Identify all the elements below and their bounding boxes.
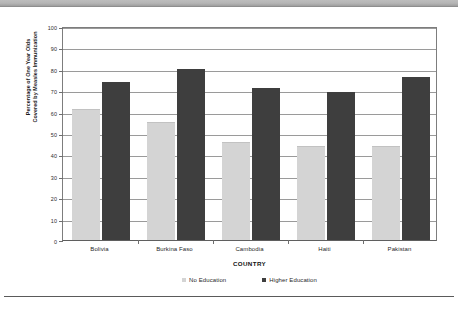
x-axis-category-label: Burkina Faso [156,246,193,252]
x-axis-tick [363,240,364,244]
page: Percentage of One Year Olds Covered by M… [0,0,458,309]
y-axis-tick-label: 10 [51,218,57,224]
y-axis-title-line-1: Percentage of One Year Olds [25,39,32,116]
bar [402,77,430,240]
chart-legend: No EducationHigher Education [62,277,437,283]
y-axis-title-line-2: Covered by Measles Immunization [32,31,39,122]
bar [297,146,325,240]
x-axis-category-label: Cambodia [235,246,263,252]
legend-label: Higher Education [269,277,317,283]
bar [252,88,280,240]
y-axis-tick-label: 40 [51,153,57,159]
page-bottom-rule [4,296,454,297]
y-axis-tick-label: 50 [51,132,57,138]
y-axis-tick-label: 70 [51,89,57,95]
bar [327,92,355,240]
y-axis-tick-label: 90 [51,46,57,52]
bar-chart-figure: Percentage of One Year Olds Covered by M… [0,10,458,295]
y-axis-tick-label: 80 [51,68,57,74]
bar-series-group [63,28,436,240]
bar [72,109,100,240]
y-axis-tick-label: 100 [48,25,57,31]
bar [372,146,400,240]
legend-item[interactable]: Higher Education [262,277,317,283]
page-top-band-divider [0,6,458,7]
y-axis-tick-label: 30 [51,175,57,181]
bar [177,69,205,240]
x-axis-category-label: Haiti [318,246,331,252]
bar [147,122,175,240]
x-axis-tick [288,240,289,244]
x-axis-category-labels: BoliviaBurkina FasoCambodiaHaitiPakistan [62,246,437,258]
bar [222,142,250,240]
x-axis-tick [138,240,139,244]
legend-label: No Education [189,277,226,283]
x-axis-title: COUNTRY [62,260,437,267]
y-axis-tick [59,241,63,242]
x-axis-category-label: Pakistan [388,246,412,252]
y-axis-tick-label: 60 [51,111,57,117]
y-axis-tick-label: 20 [51,196,57,202]
y-axis-tick-label: 0 [54,239,57,245]
legend-item[interactable]: No Education [182,277,226,283]
legend-swatch-icon [262,278,266,282]
x-axis-category-label: Bolivia [90,246,108,252]
bar [102,82,130,240]
y-axis-title: Percentage of One Year Olds Covered by M… [21,7,43,147]
plot-area: 0102030405060708090100 [62,27,437,241]
x-axis-tick [213,240,214,244]
legend-swatch-icon [182,278,186,282]
